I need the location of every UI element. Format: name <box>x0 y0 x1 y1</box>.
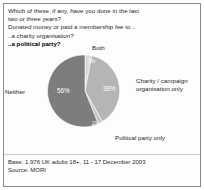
label-neither: Neither <box>5 88 25 95</box>
footer-divider <box>4 154 200 155</box>
value-both: 3% <box>88 58 95 64</box>
base-text: Base: 1,976 UK adults 18+, 11 - 17 Decem… <box>8 158 193 166</box>
question-line-4: ..a charity organisation? <box>8 32 168 40</box>
source-text: Source: MORI <box>8 166 193 174</box>
label-charity: Charity / campaign organisation only <box>136 77 194 92</box>
question-line-2: two or three years? <box>8 15 168 23</box>
question-line-1: Which of these, if any, have you done in… <box>8 7 168 15</box>
label-political: Political party only <box>115 134 165 141</box>
chart-screenshot: Which of these, if any, have you done in… <box>0 0 204 190</box>
value-charity: 39% <box>103 85 116 92</box>
pie-chart: Both Neither Charity / campaign organisa… <box>0 44 198 152</box>
question-line-3: Donated money or paid a membership fee t… <box>8 23 168 31</box>
value-neither: 56% <box>57 87 70 94</box>
footer-text: Base: 1,976 UK adults 18+, 11 - 17 Decem… <box>8 158 193 175</box>
value-political: 2% <box>92 120 99 126</box>
question-text: Which of these, if any, have you done in… <box>8 7 168 48</box>
label-both: Both <box>92 44 105 51</box>
